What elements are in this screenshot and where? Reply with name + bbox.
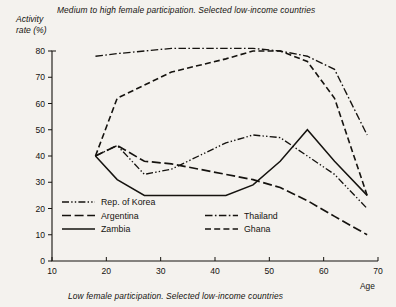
y-tick-label: 50 (35, 125, 45, 135)
y-tick-label: 10 (35, 230, 45, 240)
x-tick-label: 50 (265, 266, 275, 276)
x-tick-label: 40 (210, 266, 220, 276)
series-line-zambia (95, 130, 367, 196)
y-tick-label: 0 (40, 256, 45, 266)
legend-label-rep-of-korea: Rep. of Korea (101, 197, 155, 207)
series-line-thailand (95, 48, 367, 135)
y-tick-label: 80 (35, 46, 45, 56)
y-tick-label: 30 (35, 177, 45, 187)
y-tick-label: 20 (35, 204, 45, 214)
y-tick-label: 70 (35, 72, 45, 82)
axes-group: 0102030405060708010203040506070 (35, 46, 383, 276)
legend-label-ghana: Ghana (244, 224, 271, 234)
x-tick-label: 20 (102, 266, 112, 276)
chart-figure: Medium to high female participation. Sel… (0, 0, 396, 307)
x-tick-label: 30 (156, 266, 166, 276)
y-tick-label: 60 (35, 99, 45, 109)
x-tick-label: 60 (319, 266, 329, 276)
x-tick-label: 10 (47, 266, 57, 276)
legend-label-thailand: Thailand (244, 211, 278, 221)
plot-canvas: 0102030405060708010203040506070 Rep. of … (0, 0, 396, 307)
x-axis-label: Age (360, 281, 375, 291)
legend-group: Rep. of KoreaArgentinaZambiaThailandGhan… (62, 197, 278, 234)
series-line-ghana (95, 51, 367, 195)
legend-label-zambia: Zambia (101, 224, 130, 234)
x-tick-label: 70 (373, 266, 383, 276)
y-tick-label: 40 (35, 151, 45, 161)
chart-title-bottom: Low female participation. Selected low-i… (68, 291, 283, 301)
legend-label-argentina: Argentina (101, 211, 139, 221)
